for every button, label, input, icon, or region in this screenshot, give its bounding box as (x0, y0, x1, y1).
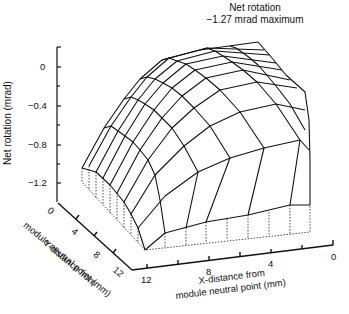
z-tick-0: 0 (40, 62, 45, 72)
z-tick-neg0.4: −0.4 (28, 101, 47, 111)
z-axis-label: Net rotation (mrad) (3, 81, 13, 165)
x-tick-0: 0 (331, 252, 336, 262)
surface-plot (0, 0, 349, 314)
z-tick-neg1.2: −1.2 (28, 178, 47, 188)
z-tick-neg0.8: −0.8 (28, 140, 47, 150)
x-tick-12: 12 (141, 275, 152, 285)
x-tick-4: 4 (268, 259, 273, 269)
z-axis (57, 47, 61, 202)
x-axis (132, 240, 333, 270)
